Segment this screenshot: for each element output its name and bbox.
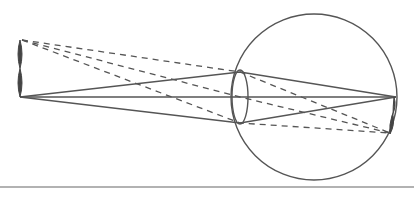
solid-rays bbox=[20, 72, 396, 123]
eye-ray-diagram bbox=[0, 0, 414, 197]
solid-ray bbox=[20, 72, 396, 97]
solid-ray bbox=[20, 97, 396, 123]
object-arrow bbox=[18, 40, 22, 97]
diagram-canvas bbox=[0, 0, 414, 197]
